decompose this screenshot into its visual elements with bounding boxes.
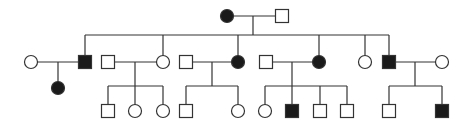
male-square-icon [341,105,354,118]
affected-female-circle-icon [232,56,245,69]
affected-male-square-icon [286,105,299,118]
pedigree-chart [0,0,473,127]
affected-female-circle-icon [221,10,234,23]
female-circle-icon [157,56,170,69]
female-circle-icon [25,56,38,69]
female-circle-icon [259,105,272,118]
male-square-icon [102,56,115,69]
male-square-icon [260,56,273,69]
female-circle-icon [232,105,245,118]
affected-male-square-icon [383,56,396,69]
male-square-icon [180,56,193,69]
male-square-icon [102,105,115,118]
affected-male-square-icon [436,105,449,118]
male-square-icon [314,105,327,118]
male-square-icon [180,105,193,118]
affected-female-circle-icon [52,82,65,95]
affected-female-circle-icon [313,56,326,69]
male-square-icon [276,10,289,23]
female-circle-icon [436,56,449,69]
female-circle-icon [129,105,142,118]
affected-male-square-icon [79,56,92,69]
individuals [25,10,449,118]
female-circle-icon [359,56,372,69]
female-circle-icon [157,105,170,118]
male-square-icon [383,105,396,118]
